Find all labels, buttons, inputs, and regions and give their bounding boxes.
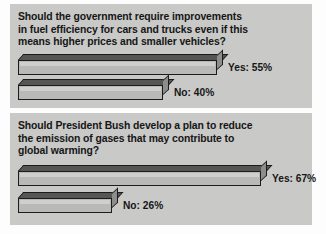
- question-line: global warming?: [18, 145, 306, 158]
- poll-panel-fuel-efficiency: Should the government require improvemen…: [10, 4, 312, 108]
- question-line: the emission of gases that may contribut…: [18, 133, 306, 146]
- bar-right-face: [261, 161, 267, 181]
- question-text-1: Should the government require improvemen…: [18, 11, 306, 49]
- bar-highlight: [20, 200, 110, 204]
- question-line: in fuel efficiency for cars and trucks e…: [18, 24, 306, 37]
- bar-label-no: No: 26%: [123, 198, 163, 213]
- bar-chart-2: Yes: 67% No: 26%: [18, 161, 306, 219]
- poll-results-figure: Should the government require improvemen…: [0, 0, 326, 234]
- bar-label-no: No: 40%: [174, 85, 214, 100]
- bar-right-face: [163, 75, 169, 95]
- bar-right-face: [217, 50, 223, 70]
- bar-yes: [18, 60, 217, 75]
- bar-chart-1: Yes: 55% No: 40%: [18, 52, 306, 102]
- bar-highlight: [20, 62, 215, 66]
- bar-top-face: [18, 165, 272, 171]
- question-line: Should the government require improvemen…: [18, 11, 306, 24]
- bar-label-yes: Yes: 55%: [228, 60, 272, 75]
- bar-no: [18, 198, 112, 213]
- bar-top-face: [18, 192, 123, 198]
- question-text-2: Should President Bush develop a plan to …: [18, 120, 306, 158]
- bar-top-face: [18, 79, 174, 85]
- bar-top-face: [18, 54, 228, 60]
- question-line: means higher prices and smaller vehicles…: [18, 36, 306, 49]
- bar-right-face: [112, 188, 118, 208]
- bar-highlight: [20, 173, 259, 177]
- question-line: Should President Bush develop a plan to …: [18, 120, 306, 133]
- bar-label-yes: Yes: 67%: [272, 171, 316, 186]
- poll-panel-global-warming: Should President Bush develop a plan to …: [10, 113, 312, 225]
- bar-yes: [18, 171, 261, 186]
- bar-no: [18, 85, 163, 100]
- bar-highlight: [20, 87, 161, 91]
